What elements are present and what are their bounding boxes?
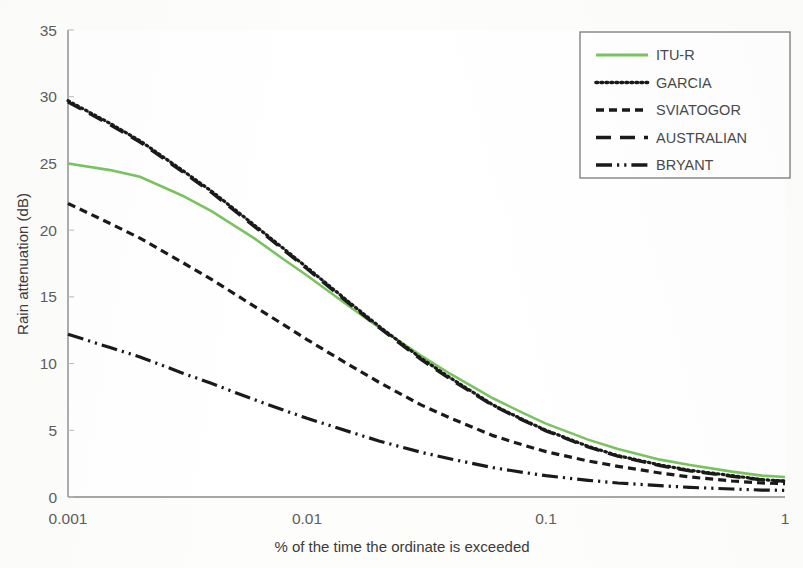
chart-canvas: 05101520253035 0.0010.010.11 % of the ti… [0, 0, 803, 568]
y-tick-label: 25 [40, 155, 57, 172]
y-tick-label: 35 [40, 22, 57, 39]
x-tick-label: 0.1 [535, 510, 557, 527]
y-tick-labels: 05101520253035 [40, 22, 58, 506]
legend-label-itu-r: ITU-R [656, 47, 695, 63]
legend-label-australian: AUSTRALIAN [656, 130, 747, 146]
x-tick-label: 0.001 [49, 510, 88, 527]
x-tick-label: 1 [781, 510, 790, 527]
y-tick-label: 20 [40, 222, 58, 239]
y-axis-title: Rain attenuation (dB) [14, 193, 31, 335]
y-tick-label: 30 [40, 88, 58, 105]
legend-label-sviatogor: SVIATOGOR [656, 102, 741, 118]
legend-label-garcia: GARCIA [656, 75, 712, 91]
y-tick-label: 15 [40, 288, 57, 305]
y-tick-label: 0 [48, 489, 57, 506]
x-tick-label: 0.01 [292, 510, 322, 527]
x-axis-title: % of the time the ordinate is exceeded [274, 538, 529, 555]
legend: ITU-RGARCIASVIATOGORAUSTRALIANBRYANT [580, 32, 790, 178]
y-tick-label: 5 [48, 422, 57, 439]
x-tick-labels: 0.0010.010.11 [49, 510, 790, 527]
rain-attenuation-chart-figure: 05101520253035 0.0010.010.11 % of the ti… [0, 0, 803, 568]
y-tick-label: 10 [40, 355, 58, 372]
legend-label-bryant: BRYANT [656, 157, 714, 173]
